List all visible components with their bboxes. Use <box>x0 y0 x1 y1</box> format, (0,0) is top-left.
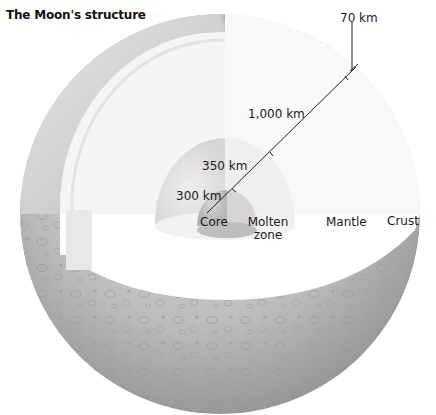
mantle-thickness-label: 1,000 km <box>248 108 305 121</box>
moon-cutaway-illustration <box>0 0 436 415</box>
mantle-label: Mantle <box>326 216 367 229</box>
moon-structure-diagram: The Moon's structure 70 km 1,000 km 350 … <box>0 0 436 415</box>
crust-label: Crust <box>387 215 419 228</box>
molten-zone-label: Molten zone <box>245 216 291 242</box>
core-label: Core <box>200 216 228 229</box>
crust-thickness-label: 70 km <box>340 12 378 25</box>
molten-zone-radius-label: 350 km <box>202 160 247 173</box>
molten-zone-label-line2: zone <box>245 229 291 242</box>
diagram-title: The Moon's structure <box>6 8 146 22</box>
core-radius-label: 300 km <box>176 190 221 203</box>
